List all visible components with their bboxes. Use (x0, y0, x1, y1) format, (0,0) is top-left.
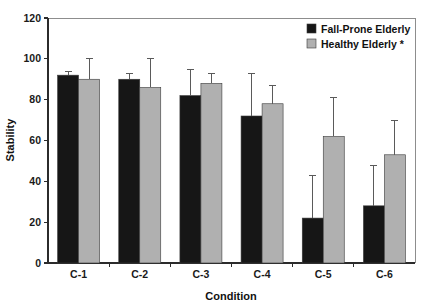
bar (384, 155, 405, 263)
legend-swatch (307, 39, 316, 48)
bar (363, 206, 384, 263)
legend-label: Fall-Prone Elderly (321, 23, 410, 35)
x-tick-label: C-6 (376, 268, 393, 280)
y-axis-title: Stability (4, 118, 16, 162)
bar (79, 79, 100, 263)
bar (140, 87, 161, 263)
bar (262, 104, 283, 263)
legend-swatch (307, 24, 316, 33)
y-tick-label: 20 (29, 216, 41, 228)
legend: Fall-Prone ElderlyHealthy Elderly * (307, 23, 410, 50)
y-axis-ticks: 020406080100120 (23, 12, 48, 269)
x-axis-title: Condition (205, 290, 257, 302)
y-tick-label: 0 (35, 257, 41, 269)
bar (241, 116, 262, 263)
bars-layer (58, 75, 406, 263)
y-tick-label: 80 (29, 93, 41, 105)
bar (58, 75, 79, 263)
chart-canvas: 020406080100120 C-1C-2C-3C-4C-5C-6 Condi… (0, 0, 426, 307)
x-tick-label: C-1 (70, 268, 87, 280)
x-axis-ticks (109, 263, 354, 267)
y-tick-label: 100 (23, 52, 41, 64)
y-tick-label: 120 (23, 12, 41, 24)
x-tick-label: C-3 (192, 268, 209, 280)
error-bars-layer (65, 59, 399, 218)
x-tick-label: C-2 (131, 268, 148, 280)
y-tick-label: 60 (29, 134, 41, 146)
y-tick-label: 40 (29, 175, 41, 187)
x-tick-label: C-5 (315, 268, 332, 280)
bar-chart-figure: 020406080100120 C-1C-2C-3C-4C-5C-6 Condi… (0, 0, 426, 307)
bar (201, 83, 222, 263)
x-tick-label: C-4 (254, 268, 271, 280)
legend-label: Healthy Elderly * (321, 38, 405, 50)
plot-frame (48, 18, 415, 263)
bar (302, 218, 323, 263)
bar (119, 79, 140, 263)
bar (323, 136, 344, 263)
x-axis-tick-labels: C-1C-2C-3C-4C-5C-6 (70, 268, 393, 280)
bar (180, 96, 201, 263)
